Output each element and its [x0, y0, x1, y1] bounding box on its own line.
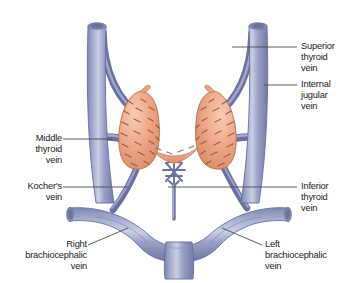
- label-middle-thyroid-vein: Middle thyroid vein: [4, 133, 62, 167]
- left-internal-jugular-vein: [241, 26, 268, 203]
- label-right-brachiocephalic-vein: Right brachiocephalic vein: [2, 239, 87, 273]
- label-internal-jugular-vein: Internal jugular vein: [301, 79, 357, 113]
- thyroid-right-lobe-upper-pole: [141, 85, 150, 93]
- label-superior-thyroid-vein: Superior thyroid vein: [301, 41, 357, 75]
- thyroid-left-lobe-upper-pole: [205, 85, 214, 93]
- right-brachiocephalic-lumen: [69, 210, 73, 219]
- thyroid-gland: [119, 85, 237, 169]
- label-left-brachiocephalic-vein: Left brachiocephalic vein: [265, 239, 357, 273]
- thyroid-venous-drainage-figure: Superior thyroid vein Internal jugular v…: [0, 0, 358, 283]
- thyroid-isthmus-texture: [156, 146, 194, 154]
- left-brachiocephalic-lumen: [286, 210, 290, 219]
- right-internal-jugular-vein-lumen: [92, 25, 103, 29]
- right-internal-jugular-vein: [87, 26, 114, 203]
- label-inferior-thyroid-vein: Inferior thyroid vein: [301, 181, 357, 215]
- leader-right-brachiocephalic-vein: [88, 228, 128, 245]
- left-internal-jugular-vein-lumen: [253, 25, 264, 29]
- label-kochers-vein: Kocher's vein: [0, 181, 62, 203]
